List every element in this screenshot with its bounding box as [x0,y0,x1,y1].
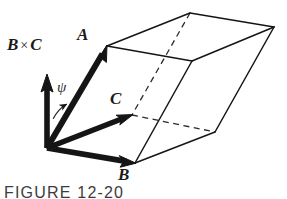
label-vector-c: C [110,90,121,107]
label-b-cross-c: B×C [7,36,42,53]
vector-arrows [41,45,136,167]
parallelepiped-diagram [0,0,287,199]
hidden-edge-top-back-to-rear-bottom [132,13,190,115]
edge-front-middle-vertical [135,61,192,163]
label-vector-a: A [77,26,88,43]
label-b-cross-c-c: C [30,35,41,54]
edge-top-front-right [107,46,192,61]
cross-product-icon: × [18,38,30,53]
edge-top-right-front [192,27,274,61]
vector-a-arrow [47,45,107,148]
figure-container: B×C A C B ψ FIGURE 12-20 [0,0,287,199]
parallelepiped-hidden-edges [47,13,215,148]
edge-top-back-right [190,13,274,27]
hidden-edge-rear-bottom-to-right-bottom [132,115,215,132]
label-vector-b: B [118,166,129,183]
edge-top-front-left [107,13,190,46]
edge-bottom-right [135,132,215,163]
label-angle-psi: ψ [57,80,66,95]
label-b-cross-c-b: B [7,35,18,54]
figure-caption: FIGURE 12-20 [4,184,124,199]
edge-right-vertical [215,27,274,132]
